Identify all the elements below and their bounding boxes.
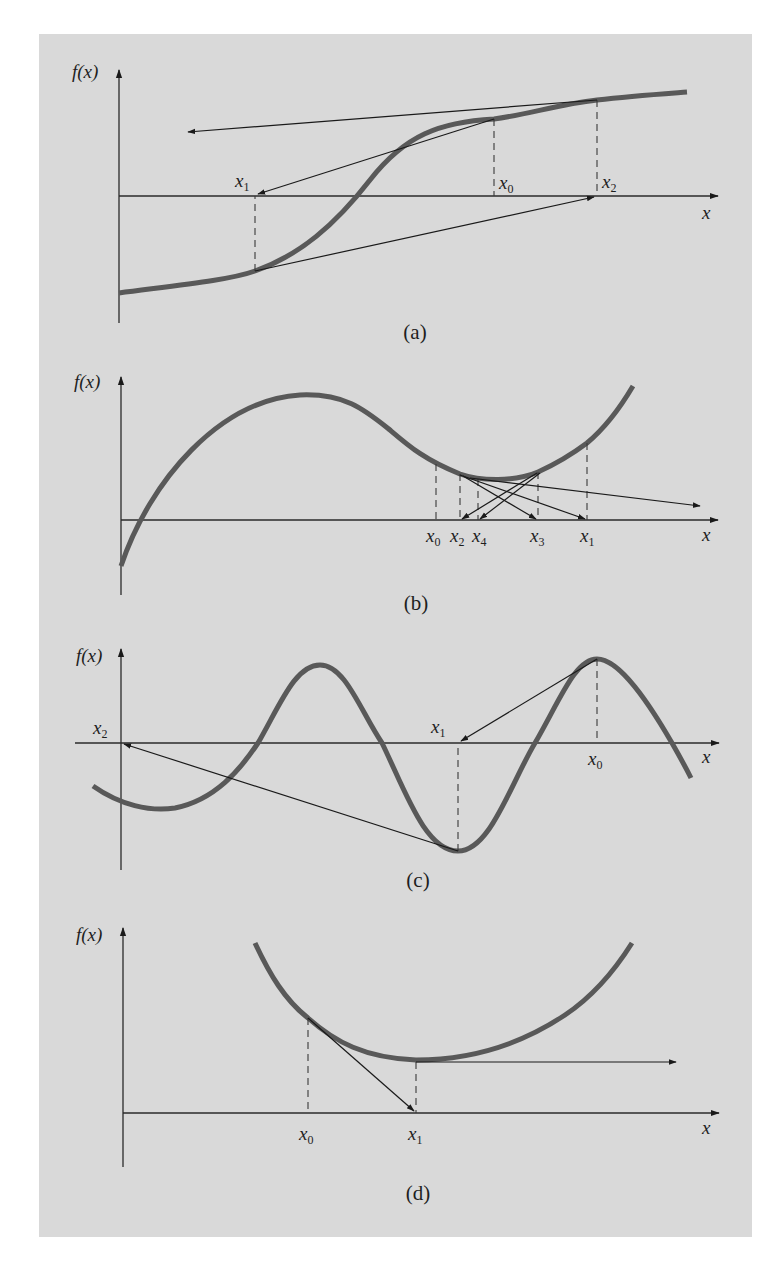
x-axis-label: x	[701, 1117, 711, 1138]
y-axis-label: f(x)	[72, 61, 98, 83]
y-axis-label: f(x)	[76, 924, 102, 946]
y-axis-label: f(x)	[76, 645, 102, 667]
x-axis-label: x	[701, 746, 711, 767]
x-axis-label: x	[701, 524, 711, 545]
panel-caption-b: (b)	[404, 591, 429, 615]
x-axis-label: x	[701, 202, 711, 223]
panel-caption-c: (c)	[406, 868, 429, 892]
newton-raphson-pitfalls-figure: f(x) x x1 x0 x2 (a) f(x) x x0 x2 x4 x	[0, 0, 784, 1265]
y-axis-label: f(x)	[74, 371, 100, 393]
panel-caption-a: (a)	[403, 320, 426, 344]
panel-caption-d: (d)	[406, 1181, 431, 1205]
